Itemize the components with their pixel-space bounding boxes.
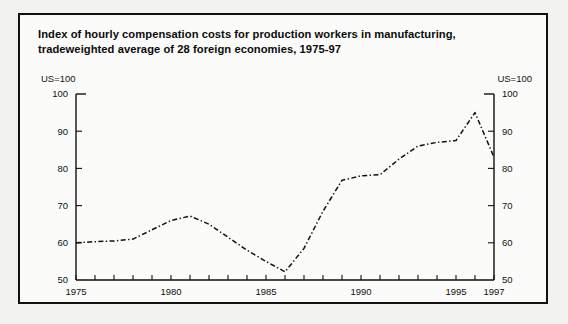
plot-area: 5060708090100 5060708090100 197519801985… bbox=[20, 15, 550, 306]
x-tick-label: 1990 bbox=[350, 286, 371, 297]
x-axis-labels: 197519801985199019951997 bbox=[65, 286, 504, 297]
y-tick-label: 80 bbox=[502, 163, 513, 174]
y-tick-label: 50 bbox=[502, 274, 513, 285]
y-tick-label: 80 bbox=[57, 163, 68, 174]
y-tick-label: 50 bbox=[57, 274, 68, 285]
y-tick-label: 90 bbox=[502, 126, 513, 137]
x-tick-label: 1980 bbox=[160, 286, 181, 297]
axes-group bbox=[76, 94, 494, 280]
y-tick-label: 60 bbox=[57, 237, 68, 248]
y-axis-labels-right: 5060708090100 bbox=[502, 88, 518, 285]
y-tick-label: 70 bbox=[57, 200, 68, 211]
y-tick-label: 100 bbox=[52, 88, 68, 99]
line-chart-svg: 5060708090100 5060708090100 197519801985… bbox=[20, 15, 550, 306]
x-tick-label: 1997 bbox=[483, 286, 504, 297]
chart-frame: Index of hourly compensation costs for p… bbox=[18, 13, 548, 304]
y-tick-label: 60 bbox=[502, 237, 513, 248]
y-tick-label: 70 bbox=[502, 200, 513, 211]
y-tick-label: 100 bbox=[502, 88, 518, 99]
series-line bbox=[76, 113, 494, 272]
y-axis-labels-left: 5060708090100 bbox=[52, 88, 68, 285]
tick-marks-group bbox=[76, 131, 494, 280]
x-tick-label: 1975 bbox=[65, 286, 86, 297]
y-tick-label: 90 bbox=[57, 126, 68, 137]
x-tick-label: 1985 bbox=[255, 286, 276, 297]
data-series-group bbox=[76, 113, 494, 272]
x-tick-label: 1995 bbox=[445, 286, 466, 297]
